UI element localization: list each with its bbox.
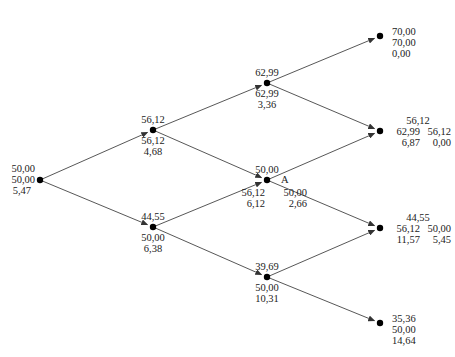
binomial-tree-diagram [0,0,455,357]
label-d-above: 44,55 [128,211,178,222]
node-root [37,177,43,183]
label-uud-left-0: 62,99 [380,126,420,137]
label-uud-top: 56,12 [393,115,443,126]
label-udd-right-0: 50,00 [421,223,451,234]
label-udd-left-1: 11,57 [380,234,420,245]
node-ud [264,177,270,183]
tree-edges [40,38,374,320]
label-root-line-0: 50,00 [0,163,35,174]
node-dd [264,274,270,280]
label-uu-above: 62,99 [242,67,292,78]
label-uud-right-1: 0,00 [421,137,451,148]
node-u [150,127,156,133]
label-u-above: 56,12 [128,114,178,125]
label-dd-below-1: 10,31 [242,293,292,304]
label-dd-above: 39,69 [242,261,292,272]
label-uu-below-1: 3,36 [242,99,292,110]
node-uuu [377,33,383,39]
node-ddd [377,320,383,326]
label-uuu-line-2: 0,00 [392,48,410,59]
label-udd-left-0: 56,12 [380,223,420,234]
label-ddd-line-0: 35,36 [392,313,416,324]
node-d [150,224,156,230]
label-d-below-1: 6,38 [128,243,178,254]
label-u-below-1: 4,68 [128,146,178,157]
label-ud-below-left-0: 56,12 [225,187,265,198]
tree-nodes [37,33,383,326]
label-udd-right-1: 5,45 [421,234,451,245]
label-ddd-line-1: 50,00 [392,324,416,335]
label-ud-tag: A [281,174,289,185]
label-udd-top: 44,55 [393,212,443,223]
label-uuu-line-0: 70,00 [392,26,416,37]
label-ud-below-right-0: 50,00 [267,187,307,198]
label-uud-right-0: 56,12 [421,126,451,137]
node-uu [264,80,270,86]
label-d-below-0: 50,00 [128,232,178,243]
label-uud-left-1: 6,87 [380,137,420,148]
label-u-below-0: 56,12 [128,135,178,146]
label-root-line-2: 5,47 [0,185,31,196]
label-ud-below-left-1: 6,12 [225,198,265,209]
label-root-line-1: 50,00 [0,174,35,185]
label-ddd-line-2: 14,64 [392,335,416,346]
label-ud-below-right-1: 2,66 [267,198,307,209]
label-dd-below-0: 50,00 [242,282,292,293]
label-uu-below-0: 62,99 [242,88,292,99]
label-uuu-line-1: 70,00 [392,37,416,48]
